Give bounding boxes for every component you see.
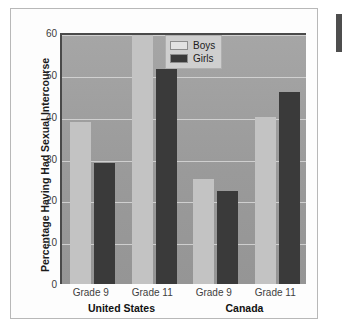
y-axis-ticks: 0102030405060 [11, 33, 57, 284]
bar-girls-2 [217, 191, 238, 284]
bar-boys-2 [193, 179, 214, 284]
bar-boys-3 [255, 117, 276, 284]
legend-swatch-girls-icon [170, 54, 188, 63]
bar-boys-1 [132, 35, 153, 284]
y-tick-30: 30 [15, 153, 57, 164]
group-label-canada: Canada [183, 302, 307, 314]
x-tick-2: Grade 9 [183, 287, 245, 298]
page-edge-strip [336, 14, 342, 52]
y-tick-50: 50 [15, 69, 57, 80]
chart-figure: Percentage Having Had Sexual Intercourse… [10, 8, 318, 319]
legend-item-girls: Girls [170, 52, 215, 65]
x-tick-0: Grade 9 [60, 287, 122, 298]
group-label-united-states: United States [60, 302, 184, 314]
legend-item-boys: Boys [170, 39, 215, 52]
plot-area [60, 33, 306, 284]
x-tick-1: Grade 11 [121, 287, 183, 298]
y-tick-40: 40 [15, 111, 57, 122]
x-tick-3: Grade 11 [244, 287, 306, 298]
bar-girls-0 [94, 163, 115, 284]
legend-label: Boys [193, 40, 215, 51]
bar-boys-0 [70, 122, 91, 284]
y-tick-0: 0 [15, 279, 57, 290]
gridline-50 [62, 77, 306, 78]
y-tick-10: 10 [15, 237, 57, 248]
chart-legend: BoysGirls [165, 35, 222, 69]
legend-swatch-boys-icon [170, 41, 188, 50]
y-tick-20: 20 [15, 195, 57, 206]
y-tick-60: 60 [15, 28, 57, 39]
bar-girls-1 [156, 69, 177, 284]
legend-label: Girls [193, 53, 214, 64]
bar-girls-3 [279, 92, 300, 284]
